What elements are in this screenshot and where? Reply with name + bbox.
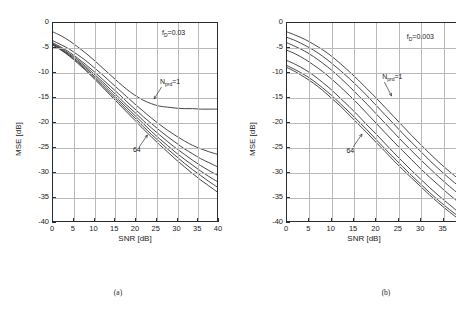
y-tick-mark bbox=[52, 172, 56, 173]
gridline-vertical bbox=[354, 23, 355, 221]
y-tick-mark bbox=[286, 172, 290, 173]
x-axis-title-b: SNR [dB] bbox=[347, 234, 380, 243]
mse-curve bbox=[287, 43, 456, 192]
gridline-horizontal bbox=[287, 148, 456, 149]
curve-group-a bbox=[53, 23, 217, 221]
x-tick-mark bbox=[375, 218, 376, 222]
x-tick-label: 25 bbox=[152, 225, 160, 233]
mse-curve bbox=[287, 68, 456, 217]
y-tick-label: 0 bbox=[30, 18, 49, 26]
y-tick-label: -15 bbox=[264, 93, 283, 101]
annotation-fd-b: fD=0.003 bbox=[407, 33, 434, 40]
y-tick-label: 0 bbox=[264, 18, 283, 26]
x-axis-title-a: SNR [dB] bbox=[118, 234, 151, 243]
gridline-horizontal bbox=[53, 98, 217, 99]
plot-wrap-a: 0-5-10-15-20-25-30-35-400510152025303540… bbox=[52, 22, 218, 222]
annotation-nprd-b-sub: prd bbox=[387, 76, 394, 82]
gridline-vertical bbox=[198, 23, 199, 221]
x-tick-label: 15 bbox=[110, 225, 118, 233]
y-tick-label: -20 bbox=[264, 118, 283, 126]
mse-curve bbox=[287, 66, 456, 215]
gridline-vertical bbox=[399, 23, 400, 221]
gridline-horizontal bbox=[53, 173, 217, 174]
x-tick-label: 35 bbox=[193, 225, 201, 233]
x-tick-mark bbox=[218, 218, 219, 222]
x-tick-label: 10 bbox=[89, 225, 97, 233]
x-tick-mark bbox=[331, 218, 332, 222]
y-tick-label: -30 bbox=[30, 168, 49, 176]
mse-curve bbox=[287, 32, 456, 177]
y-tick-label: -15 bbox=[30, 93, 49, 101]
y-tick-mark bbox=[286, 47, 290, 48]
x-tick-mark bbox=[420, 218, 421, 222]
gridline-vertical bbox=[421, 23, 422, 221]
y-tick-mark bbox=[286, 197, 290, 198]
gridline-vertical bbox=[157, 23, 158, 221]
gridline-horizontal bbox=[53, 123, 217, 124]
annotation-nprd-a-value: =1 bbox=[172, 78, 180, 85]
annotation-fd-b-sub: D bbox=[409, 36, 413, 42]
y-tick-label: -5 bbox=[264, 43, 283, 51]
y-tick-label: -35 bbox=[264, 193, 283, 201]
gridline-horizontal bbox=[287, 48, 456, 49]
annotation-fd-a: fD=0.03 bbox=[162, 29, 185, 36]
x-tick-label: 15 bbox=[349, 225, 357, 233]
gridline-vertical bbox=[444, 23, 445, 221]
gridline-horizontal bbox=[287, 173, 456, 174]
y-tick-mark bbox=[52, 72, 56, 73]
x-tick-mark bbox=[52, 218, 53, 222]
annotation-64-a: 64 bbox=[133, 146, 141, 153]
annotation-fd-b-value: =0.003 bbox=[412, 33, 434, 40]
panel-b: 0-5-10-15-20-25-30-35-4005101520253035 S… bbox=[236, 0, 471, 313]
plot-area-b bbox=[286, 22, 456, 222]
x-tick-mark bbox=[308, 218, 309, 222]
x-tick-mark bbox=[353, 218, 354, 222]
x-tick-mark bbox=[156, 218, 157, 222]
gridline-horizontal bbox=[287, 123, 456, 124]
x-tick-mark bbox=[73, 218, 74, 222]
annotation-fd-a-sub: D bbox=[164, 32, 168, 38]
mse-curve bbox=[287, 37, 456, 184]
gridline-vertical bbox=[95, 23, 96, 221]
x-tick-label: 25 bbox=[394, 225, 402, 233]
x-tick-label: 0 bbox=[284, 225, 288, 233]
gridline-horizontal bbox=[53, 198, 217, 199]
annotation-64-b: 64 bbox=[346, 147, 354, 154]
y-tick-mark bbox=[52, 22, 56, 23]
y-tick-mark bbox=[52, 147, 56, 148]
y-tick-label: -25 bbox=[264, 143, 283, 151]
plot-wrap-b: 0-5-10-15-20-25-30-35-4005101520253035 S… bbox=[286, 22, 456, 222]
gridline-horizontal bbox=[287, 98, 456, 99]
y-tick-label: -35 bbox=[30, 193, 49, 201]
x-tick-mark bbox=[443, 218, 444, 222]
x-tick-label: 5 bbox=[306, 225, 310, 233]
annotation-nprd-b: Nprd=1 bbox=[382, 73, 402, 80]
x-tick-mark bbox=[177, 218, 178, 222]
y-tick-mark bbox=[52, 197, 56, 198]
y-tick-mark bbox=[52, 47, 56, 48]
gridline-vertical bbox=[178, 23, 179, 221]
y-tick-mark bbox=[286, 122, 290, 123]
y-tick-label: -5 bbox=[30, 43, 49, 51]
y-axis-title-b: MSE [dB] bbox=[248, 122, 257, 156]
caption-a: (a) bbox=[88, 288, 148, 297]
y-tick-label: -25 bbox=[30, 143, 49, 151]
y-tick-mark bbox=[52, 222, 56, 223]
x-tick-mark bbox=[197, 218, 198, 222]
gridline-vertical bbox=[332, 23, 333, 221]
y-tick-mark bbox=[286, 72, 290, 73]
gridline-horizontal bbox=[287, 198, 456, 199]
figure-two-panel-mse-vs-snr: 0-5-10-15-20-25-30-35-400510152025303540… bbox=[0, 0, 471, 313]
x-tick-label: 30 bbox=[172, 225, 180, 233]
y-tick-mark bbox=[286, 97, 290, 98]
plot-area-a bbox=[52, 22, 218, 222]
x-tick-mark bbox=[286, 218, 287, 222]
annotation-fd-a-value: =0.03 bbox=[168, 29, 186, 36]
gridline-vertical bbox=[136, 23, 137, 221]
caption-b: (b) bbox=[356, 288, 416, 297]
gridline-vertical bbox=[309, 23, 310, 221]
y-tick-label: -10 bbox=[30, 68, 49, 76]
gridline-horizontal bbox=[53, 48, 217, 49]
y-tick-label: -20 bbox=[30, 118, 49, 126]
gridline-horizontal bbox=[287, 73, 456, 74]
